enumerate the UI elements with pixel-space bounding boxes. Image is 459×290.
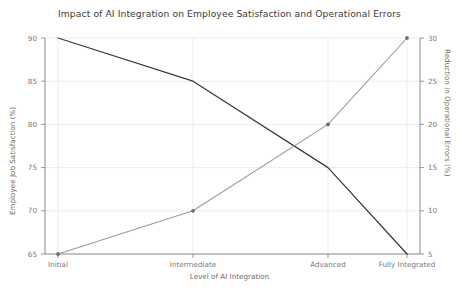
chart-figure: Impact of AI Integration on Employee Sat…: [0, 0, 459, 290]
xtick-initial: Initial: [18, 260, 98, 269]
ytick-right-10: 10: [428, 206, 452, 215]
y-axis-title-right: Reduction in Operational Errors (%): [443, 49, 452, 177]
xtick-intermediate: Intermediate: [153, 260, 233, 269]
ytick-right-30: 30: [428, 34, 452, 43]
plot-area: [0, 0, 459, 290]
ytick-right-5: 5: [428, 250, 452, 259]
xtick-advanced: Advanced: [288, 260, 368, 269]
plot-background: [45, 38, 420, 254]
x-axis-title: Level of AI Integration: [0, 272, 459, 281]
ytick-left-90: 90: [10, 34, 37, 43]
ytick-left-85: 85: [10, 77, 37, 86]
axis-ticks-x: [58, 254, 407, 258]
axis-ticks-right: [420, 38, 424, 254]
y-axis-title-left: Employee Job Satisfaction (%): [8, 107, 17, 215]
ytick-left-65: 65: [10, 250, 37, 259]
xtick-fully-integrated: Fully Integrated: [367, 260, 447, 269]
axis-ticks-left: [41, 38, 45, 254]
